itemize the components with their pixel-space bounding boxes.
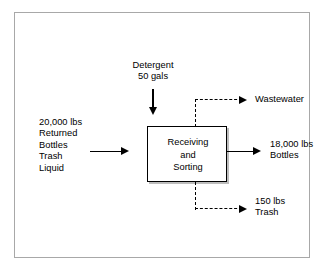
output-arrow-line-trash — [195, 208, 242, 209]
output-arrowhead-wastewater — [239, 96, 247, 104]
output-riser-wastewater — [195, 99, 196, 127]
output-riser-trash — [195, 182, 196, 210]
input-label-detergent: Detergent 50 gals — [111, 60, 195, 83]
output-label-trash: 150 lbs Trash — [255, 196, 285, 219]
input-arrow-line-returned-bottles — [90, 151, 122, 153]
output-arrowhead-trash — [239, 205, 247, 213]
input-arrowhead-detergent — [149, 107, 157, 115]
diagram-frame: 20,000 lbs Returned Bottles Trash Liquid… — [14, 12, 310, 258]
input-arrowhead-returned-bottles — [121, 147, 129, 155]
process-box[interactable]: Receiving and Sorting — [147, 126, 227, 182]
output-label-wastewater: Wastewater — [255, 94, 304, 105]
diagram-canvas: 20,000 lbs Returned Bottles Trash Liquid… — [0, 0, 324, 271]
process-box-label: Receiving and Sorting — [148, 136, 228, 174]
output-label-bottles: 18,000 lbs Bottles — [270, 139, 313, 162]
output-arrow-line-bottles — [227, 151, 255, 153]
output-arrow-line-wastewater — [195, 99, 242, 100]
output-arrowhead-bottles — [253, 147, 261, 155]
input-label-returned-bottles: 20,000 lbs Returned Bottles Trash Liquid — [39, 117, 82, 174]
